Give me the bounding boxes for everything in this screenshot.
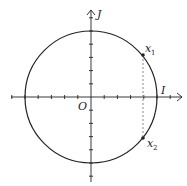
label-i: I bbox=[160, 84, 166, 97]
point-x2 bbox=[141, 136, 145, 140]
label-j: J bbox=[95, 8, 102, 21]
label-x1-sub: 1 bbox=[151, 49, 155, 57]
unit-circle-diagram: J I O x 1 x 2 bbox=[0, 0, 187, 186]
label-x2-sub: 2 bbox=[153, 144, 157, 152]
label-origin: O bbox=[78, 100, 87, 113]
